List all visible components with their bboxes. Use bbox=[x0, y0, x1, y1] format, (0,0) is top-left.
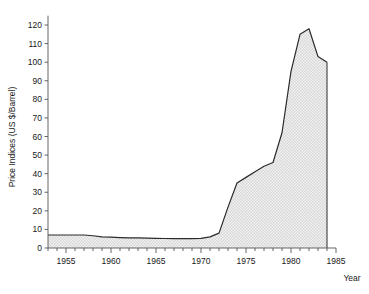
y-axis: 0102030405060708090100110120 bbox=[28, 16, 48, 253]
x-tick-label: 1980 bbox=[282, 256, 301, 266]
x-axis: 1955196019651970197519801985 bbox=[48, 248, 346, 266]
y-tick-label: 10 bbox=[33, 224, 43, 234]
y-axis-title: Price Indices (US $/Barrel) bbox=[7, 87, 17, 188]
x-tick-label: 1955 bbox=[57, 256, 76, 266]
x-axis-title: Year bbox=[343, 273, 360, 283]
y-tick-label: 60 bbox=[33, 132, 43, 142]
y-tick-label: 20 bbox=[33, 206, 43, 216]
x-tick-label: 1965 bbox=[147, 256, 166, 266]
y-tick-label: 120 bbox=[28, 20, 42, 30]
x-tick-label: 1975 bbox=[237, 256, 256, 266]
x-tick-label: 1970 bbox=[192, 256, 211, 266]
data-area-fill bbox=[48, 29, 327, 248]
y-tick-label: 30 bbox=[33, 187, 43, 197]
y-tick-label: 0 bbox=[37, 243, 42, 253]
y-tick-label: 80 bbox=[33, 94, 43, 104]
oil-price-area-chart: 0102030405060708090100110120 19551960196… bbox=[0, 0, 369, 294]
y-tick-label: 40 bbox=[33, 169, 43, 179]
y-tick-label: 110 bbox=[28, 39, 42, 49]
y-tick-label: 90 bbox=[33, 76, 43, 86]
area-fill bbox=[48, 29, 327, 248]
chart-container: 0102030405060708090100110120 19551960196… bbox=[0, 0, 369, 294]
y-tick-label: 70 bbox=[33, 113, 43, 123]
y-tick-label: 100 bbox=[28, 57, 42, 67]
x-tick-label: 1985 bbox=[327, 256, 346, 266]
x-tick-label: 1960 bbox=[102, 256, 121, 266]
y-tick-label: 50 bbox=[33, 150, 43, 160]
